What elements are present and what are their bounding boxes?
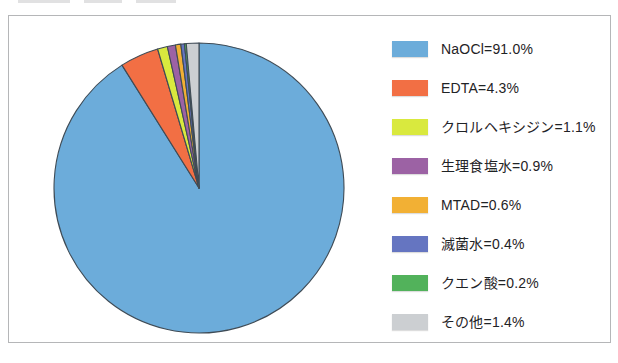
legend-swatch-sterile-water — [392, 236, 428, 252]
legend-item-saline: 生理食塩水=0.9% — [392, 158, 596, 174]
legend-swatch-saline — [392, 158, 428, 174]
legend-item-sterile-water: 滅菌水=0.4% — [392, 236, 596, 252]
legend-item-chlorhexidine: クロルヘキシジン=1.1% — [392, 119, 596, 135]
legend-item-citric-acid: クエン酸=0.2% — [392, 275, 596, 291]
legend: NaOCl=91.0%EDTA=4.3%クロルヘキシジン=1.1%生理食塩水=0… — [392, 41, 596, 330]
legend-item-others: その他=1.4% — [392, 314, 596, 330]
legend-label-saline: 生理食塩水=0.9% — [441, 158, 553, 174]
legend-label-naocl: NaOCl=91.0% — [441, 41, 533, 57]
legend-item-mtad: MTAD=0.6% — [392, 197, 596, 213]
legend-label-citric-acid: クエン酸=0.2% — [441, 275, 539, 291]
legend-swatch-naocl — [392, 41, 428, 57]
legend-item-naocl: NaOCl=91.0% — [392, 41, 596, 57]
legend-label-edta: EDTA=4.3% — [441, 80, 519, 96]
legend-label-sterile-water: 滅菌水=0.4% — [441, 236, 525, 252]
legend-swatch-edta — [392, 80, 428, 96]
legend-label-chlorhexidine: クロルヘキシジン=1.1% — [441, 119, 596, 135]
legend-swatch-mtad — [392, 197, 428, 213]
legend-label-others: その他=1.4% — [441, 314, 525, 330]
legend-swatch-chlorhexidine — [392, 119, 428, 135]
legend-swatch-citric-acid — [392, 275, 428, 291]
legend-label-mtad: MTAD=0.6% — [441, 197, 522, 213]
legend-swatch-others — [392, 314, 428, 330]
legend-item-edta: EDTA=4.3% — [392, 80, 596, 96]
